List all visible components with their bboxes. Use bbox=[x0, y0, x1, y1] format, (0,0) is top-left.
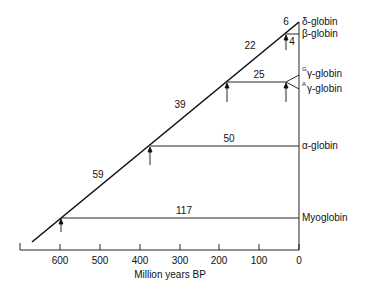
tick-100: 100 bbox=[251, 255, 268, 266]
branch-length-delta: 6 bbox=[283, 16, 289, 27]
tick-500: 500 bbox=[92, 255, 109, 266]
a-gamma-superscript: A bbox=[302, 81, 306, 87]
main-stem-line bbox=[32, 22, 299, 242]
x-axis-label: Million years BP bbox=[134, 269, 206, 280]
branch-length-myoglobin: 117 bbox=[176, 205, 192, 216]
gene-label-alpha: α-globin bbox=[302, 140, 338, 151]
gene-label-myoglobin: Myoglobin bbox=[302, 212, 348, 223]
branch-length-gamma: 25 bbox=[253, 69, 265, 80]
tick-0: 0 bbox=[296, 255, 302, 266]
gene-label-g-gamma: γ-globin bbox=[307, 68, 342, 79]
gene-label-a-gamma: γ-globin bbox=[307, 83, 342, 94]
tick-300: 300 bbox=[172, 255, 189, 266]
branch-length-59: 59 bbox=[92, 169, 104, 180]
x-axis-tick-labels: 600 500 400 300 200 100 0 bbox=[52, 255, 303, 266]
branch-length-22: 22 bbox=[244, 40, 256, 51]
divergence-arrows bbox=[59, 35, 288, 232]
gene-label-beta: β-globin bbox=[302, 28, 338, 39]
tick-600: 600 bbox=[52, 255, 69, 266]
tick-400: 400 bbox=[132, 255, 149, 266]
globin-phylogeny-diagram: 600 500 400 300 200 100 0 Million years … bbox=[0, 0, 368, 295]
branch-length-alpha: 50 bbox=[223, 133, 235, 144]
branch-length-beta: 4 bbox=[289, 36, 295, 47]
x-axis-ticks bbox=[20, 243, 299, 250]
gene-label-delta: δ-globin bbox=[302, 16, 338, 27]
branch-length-39: 39 bbox=[174, 99, 186, 110]
tick-200: 200 bbox=[211, 255, 228, 266]
g-gamma-fork bbox=[286, 75, 299, 82]
